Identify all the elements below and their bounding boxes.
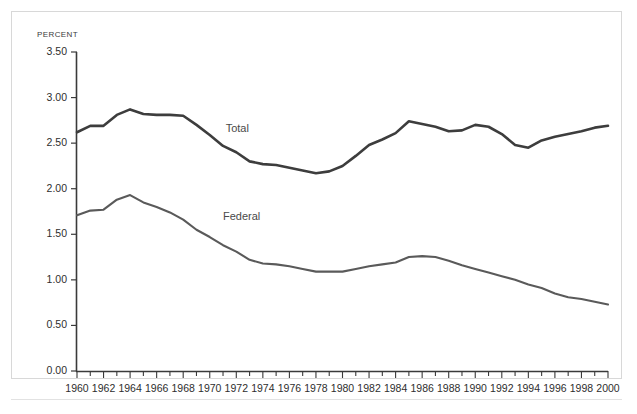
chart-figure: PERCENT 0.000.501.001.502.002.503.003.50…	[0, 0, 637, 414]
x-axis-tick-label: 1960	[65, 382, 88, 394]
y-axis-tick-label: 0.00	[35, 364, 67, 376]
axis-lines	[76, 52, 608, 372]
x-axis-tick-label: 1986	[410, 382, 433, 394]
x-axis-tick-label: 1988	[437, 382, 460, 394]
x-axis-tick-label: 1970	[198, 382, 221, 394]
x-axis-tick-label: 1992	[490, 382, 513, 394]
x-axis-tick-label: 1976	[278, 382, 301, 394]
series-label-total: Total	[226, 122, 249, 134]
x-axis-tick-label: 1964	[118, 382, 141, 394]
x-axis-tick-label: 1996	[543, 382, 566, 394]
y-axis-tick-label: 2.50	[35, 136, 67, 148]
x-axis-tick-label: 1968	[172, 382, 195, 394]
series-label-federal: Federal	[223, 210, 260, 222]
y-axis-tick-label: 1.00	[35, 273, 67, 285]
series-line-total	[77, 109, 608, 173]
y-axis-tick-label: 1.50	[35, 227, 67, 239]
y-axis-tick-label: 2.00	[35, 182, 67, 194]
y-axis-tick-label: 3.00	[35, 91, 67, 103]
series-line-federal	[77, 195, 608, 304]
x-axis-tick-label: 1984	[384, 382, 407, 394]
x-axis-tick-label: 1998	[570, 382, 593, 394]
x-axis-tick-label: 1994	[517, 382, 540, 394]
x-axis-tick-label: 1962	[92, 382, 115, 394]
x-axis-tick-label: 2000	[596, 382, 619, 394]
chart-plot-area	[0, 0, 637, 414]
x-axis-tick-label: 1990	[464, 382, 487, 394]
x-axis-tick-label: 1974	[251, 382, 274, 394]
footer-divider	[11, 399, 622, 400]
x-axis-tick-label: 1978	[304, 382, 327, 394]
x-axis-ticks	[77, 371, 608, 378]
x-axis-tick-label: 1972	[225, 382, 248, 394]
y-axis-tick-label: 3.50	[35, 45, 67, 57]
x-axis-tick-label: 1982	[357, 382, 380, 394]
x-axis-tick-label: 1980	[331, 382, 354, 394]
y-axis-tick-label: 0.50	[35, 318, 67, 330]
series-lines	[77, 109, 608, 304]
x-axis-tick-label: 1966	[145, 382, 168, 394]
